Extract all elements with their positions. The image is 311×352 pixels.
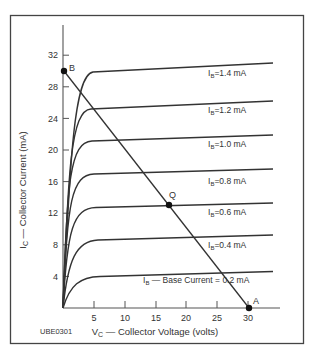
y-tick-12: 12: [48, 208, 58, 218]
x-tick-10: 10: [120, 313, 130, 323]
label-ib-0.8: IB=0.8 mA: [208, 176, 247, 187]
label-ib-1.2: IB=1.2 mA: [208, 105, 247, 116]
y-tick-20: 20: [48, 145, 58, 155]
point-b-marker: [61, 68, 67, 74]
x-ticks: [94, 301, 248, 308]
y-tick-4: 4: [53, 272, 58, 282]
label-ib-0.6: IB=0.6 mA: [208, 207, 247, 218]
label-ib-0.2: IB — Base Current = 0.2 mA: [143, 275, 250, 286]
curve-ib-0.6: [63, 203, 273, 308]
y-tick-16: 16: [48, 177, 58, 187]
y-axis-title: IC — Collector Current (mA): [17, 131, 29, 249]
point-a-label: A: [253, 296, 259, 306]
x-tick-labels: 5 10 15 20 25 30: [91, 313, 253, 323]
point-q-marker: [166, 202, 172, 208]
point-b-label: B: [69, 63, 75, 73]
y-tick-labels: 4 8 12 16 20 24 28 32: [48, 50, 58, 281]
x-tick-15: 15: [151, 313, 161, 323]
x-tick-25: 25: [212, 313, 222, 323]
point-a-marker: [246, 305, 252, 311]
label-ib-1.0: IB=1.0 mA: [208, 139, 247, 150]
figure-id: UBE0301: [40, 327, 72, 336]
point-q-label: Q: [169, 190, 176, 200]
x-axis-title: VC — Collector Voltage (volts): [92, 326, 219, 338]
label-ib-1.4: IB=1.4 mA: [208, 68, 247, 79]
y-tick-8: 8: [53, 240, 58, 250]
curve-labels: IB=1.4 mA IB=1.2 mA IB=1.0 mA IB=0.8 mA …: [143, 68, 250, 286]
transistor-characteristic-chart: 4 8 12 16 20 24 28 32 5 10 15 20 25 30: [0, 0, 311, 352]
x-tick-5: 5: [91, 313, 96, 323]
y-tick-24: 24: [48, 114, 58, 124]
x-tick-30: 30: [243, 313, 253, 323]
y-tick-28: 28: [48, 82, 58, 92]
y-tick-32: 32: [48, 50, 58, 60]
label-ib-0.4: IB=0.4 mA: [208, 240, 247, 251]
x-tick-20: 20: [181, 313, 191, 323]
